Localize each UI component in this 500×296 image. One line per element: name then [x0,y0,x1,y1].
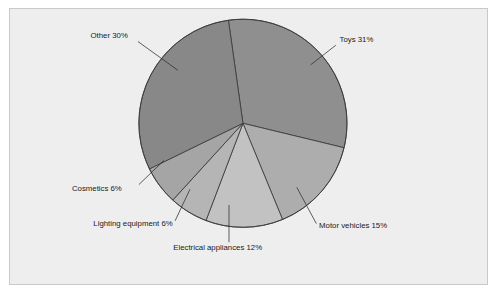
figure-root: Toys 31%Motor vehicles 15%Electrical app… [0,0,500,296]
slice-label-toys: Toys 31% [340,35,374,44]
pie-slices-group [139,19,347,227]
slice-label-motor-vehicles: Motor vehicles 15% [319,221,387,230]
slice-label-lighting-equipment: Lighting equipment 6% [93,219,172,228]
pie-chart-svg: Toys 31%Motor vehicles 15%Electrical app… [10,9,487,284]
slice-label-other: Other 30% [91,31,128,40]
slice-label-electrical-appliances: Electrical appliances 12% [173,243,262,252]
slice-label-cosmetics: Cosmetics 6% [72,184,122,193]
pie-chart-panel: Toys 31%Motor vehicles 15%Electrical app… [9,8,488,285]
